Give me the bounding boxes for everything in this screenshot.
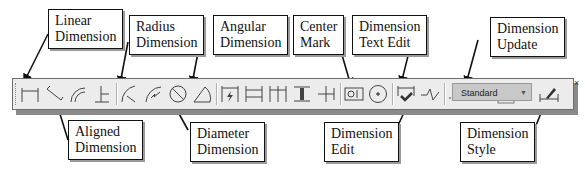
callout-text: Edit <box>331 142 392 158</box>
callout-text: Mark <box>300 35 337 51</box>
ordinate-dimension-button[interactable] <box>91 82 113 106</box>
callout-angular-dimension: Angular Dimension <box>213 15 288 55</box>
radius-dimension-icon <box>119 82 141 106</box>
callout-radius-dimension: Radius Dimension <box>129 15 204 55</box>
aligned-dimension-icon <box>43 82 65 106</box>
callout-text: Dimension <box>136 35 197 51</box>
callout-linear-dimension: Linear Dimension <box>48 9 123 49</box>
callout-text: Center <box>300 19 337 35</box>
callout-text: Dimension <box>220 35 281 51</box>
callout-text: Radius <box>136 19 197 35</box>
radius-dimension-button[interactable] <box>119 82 141 106</box>
callout-dimension-style: Dimension Style <box>460 122 535 162</box>
dimension-space-icon <box>291 82 313 106</box>
callout-diameter-dimension: Diameter Dimension <box>190 122 265 162</box>
style-select-value: Standard <box>461 88 498 98</box>
dimension-break-button[interactable] <box>315 82 337 106</box>
callout-text: Update <box>497 37 558 53</box>
callout-dimension-update: Dimension Update <box>490 17 565 57</box>
callout-text: Diameter <box>197 126 258 142</box>
linear-dimension-button[interactable] <box>19 82 41 106</box>
toolbar-separator <box>444 83 446 105</box>
callout-text: Linear <box>55 13 116 29</box>
baseline-dimension-icon <box>243 82 265 106</box>
callout-text: Style <box>467 142 528 158</box>
callout-dimension-text-edit: Dimension Text Edit <box>352 15 427 55</box>
callout-text: Dimension <box>197 142 258 158</box>
tolerance-icon <box>343 82 365 106</box>
jogged-dimension-button[interactable] <box>143 82 165 106</box>
callout-center-mark: Center Mark <box>293 15 344 55</box>
chevron-down-icon: ▼ <box>520 84 527 102</box>
tolerance-button[interactable] <box>343 82 365 106</box>
arc-length-button[interactable] <box>67 82 89 106</box>
callout-dimension-edit: Dimension Edit <box>324 122 399 162</box>
callout-text: Dimension <box>331 126 392 142</box>
toolbar-separator <box>340 83 342 105</box>
callout-text: Dimension <box>55 29 116 45</box>
callout-text: Dimension <box>359 19 420 35</box>
jogged-dimension-icon <box>143 82 165 106</box>
inspection-button[interactable] <box>395 82 417 106</box>
dimension-style-button[interactable] <box>538 82 560 106</box>
toolbar-separator <box>116 83 118 105</box>
diameter-dimension-icon <box>167 82 189 106</box>
angular-dimension-icon <box>191 82 213 106</box>
callout-text: Text Edit <box>359 35 420 51</box>
dimension-space-button[interactable] <box>291 82 313 106</box>
callout-text: Aligned <box>75 124 136 140</box>
dimension-style-icon <box>538 82 560 106</box>
diameter-dimension-button[interactable] <box>167 82 189 106</box>
dimension-break-icon <box>315 82 337 106</box>
continue-dimension-button[interactable] <box>267 82 289 106</box>
jogged-linear-icon <box>419 82 441 106</box>
callout-text: Dimension <box>75 140 136 156</box>
baseline-dimension-button[interactable] <box>243 82 265 106</box>
center-mark-icon <box>367 82 389 106</box>
close-icon[interactable]: × <box>574 78 579 88</box>
angular-dimension-button[interactable] <box>191 82 213 106</box>
arc-length-icon <box>67 82 89 106</box>
quick-dimension-icon <box>219 82 241 106</box>
toolbar-separator <box>392 83 394 105</box>
callout-text: Angular <box>220 19 281 35</box>
ordinate-dimension-icon <box>91 82 113 106</box>
inspection-icon <box>395 82 417 106</box>
callout-aligned-dimension: Aligned Dimension <box>68 120 143 160</box>
toolbar-separator <box>216 83 218 105</box>
quick-dimension-button[interactable] <box>219 82 241 106</box>
callout-text: Dimension <box>467 126 528 142</box>
callout-text: Dimension <box>497 21 558 37</box>
center-mark-button[interactable] <box>367 82 389 106</box>
aligned-dimension-button[interactable] <box>43 82 65 106</box>
jogged-linear-button[interactable] <box>419 82 441 106</box>
dimension-style-select[interactable]: Standard ▼ <box>452 83 532 101</box>
linear-dimension-icon <box>19 82 41 106</box>
continue-dimension-icon <box>267 82 289 106</box>
